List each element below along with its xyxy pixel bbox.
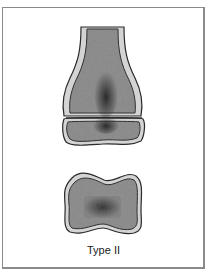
figure-caption: Type II	[0, 244, 207, 256]
bone-illustration	[0, 0, 207, 275]
metaphysis	[63, 27, 142, 118]
fragment-cross-section	[65, 173, 142, 234]
epiphysis	[63, 114, 145, 145]
